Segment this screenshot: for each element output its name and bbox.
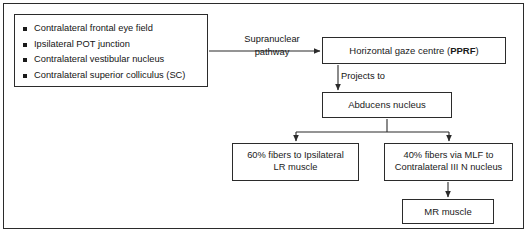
pprf-text-tail: ) (476, 45, 479, 57)
mr-muscle-node: MR muscle (402, 199, 494, 224)
horizontal-gaze-centre-node: Horizontal gaze centre (PPRF) (322, 37, 506, 64)
supranuclear-pathway-label: Supranuclear pathway (224, 33, 320, 59)
abducens-nucleus-node: Abducens nucleus (322, 92, 452, 118)
mlf-line2: Contralateral III N nucleus (395, 162, 502, 174)
mlf-line1: 40% fibers via MLF to (395, 150, 502, 162)
supranuclear-pathway-line2: pathway (224, 46, 320, 59)
lr-muscle-line1: 60% fibers to Ipsilateral (247, 150, 344, 162)
etiology-list-box: Contralateral frontal eye field Ipsilate… (14, 14, 208, 87)
supranuclear-pathway-line1: Supranuclear (224, 33, 320, 46)
list-item: Contralateral vestibular nucleus (23, 52, 185, 68)
mlf-pathway-node: 40% fibers via MLF to Contralateral III … (384, 143, 513, 181)
etiology-list: Contralateral frontal eye field Ipsilate… (23, 21, 185, 83)
pprf-abbreviation: PPRF (450, 45, 475, 57)
diagram-canvas: Contralateral frontal eye field Ipsilate… (0, 0, 528, 233)
list-item: Ipsilateral POT junction (23, 37, 185, 53)
pprf-text-plain: Horizontal gaze centre ( (349, 45, 450, 57)
list-item: Contralateral superior colliculus (SC) (23, 68, 185, 84)
lr-muscle-line2: LR muscle (247, 162, 344, 174)
projects-to-label: Projects to (341, 70, 421, 83)
list-item: Contralateral frontal eye field (23, 21, 185, 37)
lr-muscle-node: 60% fibers to Ipsilateral LR muscle (232, 143, 359, 181)
